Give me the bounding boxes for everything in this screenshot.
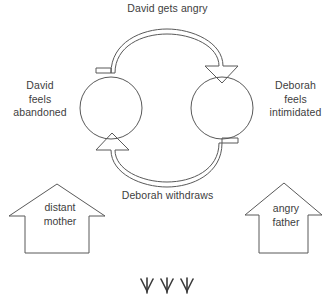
origin-house-left-label: distant mother	[18, 200, 102, 228]
left-node-label: David feels abandoned	[0, 79, 80, 120]
top-arrow-label: David gets angry	[85, 2, 250, 16]
node-circle-deborah	[191, 77, 253, 139]
conflict-cycle-diagram: David gets angry Deborah withdraws David…	[0, 0, 335, 302]
origin-house-right-label: angry father	[248, 201, 324, 229]
top-arrow-david-gets-angry	[96, 29, 238, 83]
down-arrow-mark	[181, 278, 193, 293]
diagram-canvas	[0, 0, 335, 302]
right-node-label: Deborah feels intimidated	[256, 79, 335, 120]
down-arrow-mark	[161, 278, 173, 293]
footer-down-arrow-marks	[141, 278, 193, 293]
bottom-arrow-deborah-withdraws	[96, 133, 238, 187]
bottom-arrow-label: Deborah withdraws	[95, 189, 240, 203]
node-circle-david	[80, 77, 142, 139]
down-arrow-mark	[141, 278, 153, 293]
